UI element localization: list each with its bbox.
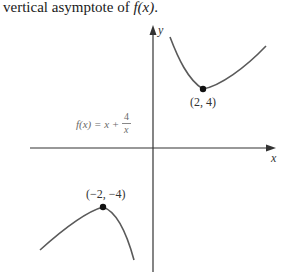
function-graph: x y (2, 4) (−2, −4) f(x) = x + 4 x [0, 0, 289, 272]
min-point-marker [200, 86, 206, 92]
max-point-marker [100, 204, 106, 210]
y-axis-arrow-icon [150, 25, 157, 35]
right-branch-curve [170, 37, 266, 89]
y-axis-label: y [157, 23, 164, 37]
function-label-lhs: f(x) = x + [76, 118, 119, 131]
left-branch-curve [40, 207, 134, 260]
min-point-label: (2, 4) [190, 95, 216, 109]
x-axis-label: x [270, 151, 277, 165]
function-label-numerator: 4 [124, 111, 129, 122]
function-label: f(x) = x + 4 x [76, 111, 131, 135]
max-point-label: (−2, −4) [86, 187, 126, 201]
function-label-denominator: x [123, 124, 129, 135]
